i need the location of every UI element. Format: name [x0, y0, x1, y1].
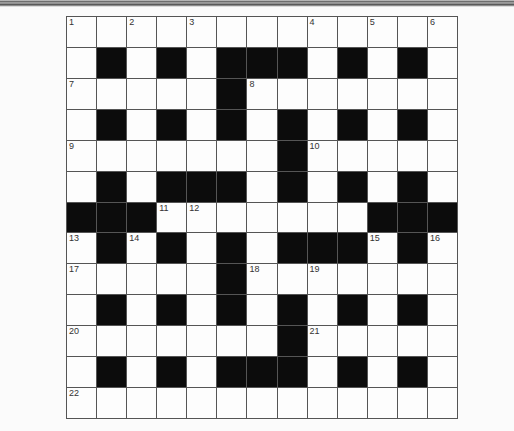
answer-cell[interactable]: 15 [368, 233, 397, 263]
answer-cell[interactable] [247, 326, 276, 356]
answer-cell[interactable]: 1 [67, 17, 96, 47]
answer-cell[interactable] [247, 233, 276, 263]
answer-cell[interactable]: 6 [428, 17, 457, 47]
answer-cell[interactable] [308, 295, 337, 325]
answer-cell[interactable] [97, 388, 126, 418]
answer-cell[interactable] [398, 264, 427, 294]
answer-cell[interactable] [187, 48, 216, 78]
answer-cell[interactable] [217, 388, 246, 418]
answer-cell[interactable] [428, 326, 457, 356]
answer-cell[interactable] [217, 141, 246, 171]
answer-cell[interactable]: 16 [428, 233, 457, 263]
answer-cell[interactable] [308, 110, 337, 140]
answer-cell[interactable] [187, 233, 216, 263]
answer-cell[interactable] [187, 264, 216, 294]
answer-cell[interactable] [157, 141, 186, 171]
answer-cell[interactable] [338, 326, 367, 356]
answer-cell[interactable] [368, 295, 397, 325]
answer-cell[interactable] [157, 326, 186, 356]
answer-cell[interactable]: 21 [308, 326, 337, 356]
answer-cell[interactable] [157, 388, 186, 418]
answer-cell[interactable]: 13 [67, 233, 96, 263]
answer-cell[interactable] [97, 141, 126, 171]
answer-cell[interactable]: 22 [67, 388, 96, 418]
answer-cell[interactable] [187, 141, 216, 171]
answer-cell[interactable] [278, 17, 307, 47]
answer-cell[interactable] [97, 17, 126, 47]
answer-cell[interactable]: 14 [127, 233, 156, 263]
answer-cell[interactable] [127, 264, 156, 294]
answer-cell[interactable] [127, 79, 156, 109]
answer-cell[interactable] [308, 203, 337, 233]
answer-cell[interactable] [338, 79, 367, 109]
answer-cell[interactable] [127, 357, 156, 387]
answer-cell[interactable]: 3 [187, 17, 216, 47]
answer-cell[interactable] [97, 326, 126, 356]
answer-cell[interactable] [428, 264, 457, 294]
answer-cell[interactable] [278, 79, 307, 109]
answer-cell[interactable] [428, 79, 457, 109]
answer-cell[interactable] [187, 357, 216, 387]
answer-cell[interactable] [338, 17, 367, 47]
answer-cell[interactable] [398, 141, 427, 171]
answer-cell[interactable] [338, 264, 367, 294]
answer-cell[interactable] [428, 172, 457, 202]
answer-cell[interactable] [278, 388, 307, 418]
answer-cell[interactable]: 11 [157, 203, 186, 233]
answer-cell[interactable] [308, 48, 337, 78]
answer-cell[interactable] [428, 295, 457, 325]
answer-cell[interactable] [247, 172, 276, 202]
answer-cell[interactable] [368, 110, 397, 140]
answer-cell[interactable] [217, 17, 246, 47]
answer-cell[interactable] [338, 388, 367, 418]
answer-cell[interactable] [67, 110, 96, 140]
answer-cell[interactable] [187, 326, 216, 356]
answer-cell[interactable] [247, 17, 276, 47]
answer-cell[interactable] [187, 110, 216, 140]
answer-cell[interactable] [338, 141, 367, 171]
answer-cell[interactable] [398, 79, 427, 109]
answer-cell[interactable] [247, 388, 276, 418]
answer-cell[interactable] [127, 172, 156, 202]
answer-cell[interactable]: 12 [187, 203, 216, 233]
answer-cell[interactable] [127, 141, 156, 171]
answer-cell[interactable] [247, 203, 276, 233]
answer-cell[interactable] [217, 203, 246, 233]
answer-cell[interactable] [278, 264, 307, 294]
answer-cell[interactable]: 17 [67, 264, 96, 294]
answer-cell[interactable] [368, 172, 397, 202]
answer-cell[interactable] [157, 79, 186, 109]
answer-cell[interactable] [398, 388, 427, 418]
answer-cell[interactable] [338, 203, 367, 233]
answer-cell[interactable]: 4 [308, 17, 337, 47]
answer-cell[interactable] [187, 295, 216, 325]
answer-cell[interactable] [368, 79, 397, 109]
answer-cell[interactable] [247, 295, 276, 325]
answer-cell[interactable] [368, 326, 397, 356]
answer-cell[interactable] [67, 172, 96, 202]
answer-cell[interactable]: 10 [308, 141, 337, 171]
answer-cell[interactable]: 2 [127, 17, 156, 47]
answer-cell[interactable] [368, 388, 397, 418]
answer-cell[interactable]: 5 [368, 17, 397, 47]
answer-cell[interactable] [157, 264, 186, 294]
answer-cell[interactable]: 7 [67, 79, 96, 109]
answer-cell[interactable] [428, 141, 457, 171]
answer-cell[interactable] [278, 203, 307, 233]
answer-cell[interactable] [97, 79, 126, 109]
answer-cell[interactable] [428, 357, 457, 387]
answer-cell[interactable] [127, 110, 156, 140]
answer-cell[interactable] [97, 264, 126, 294]
answer-cell[interactable] [368, 357, 397, 387]
answer-cell[interactable] [398, 326, 427, 356]
answer-cell[interactable] [67, 357, 96, 387]
answer-cell[interactable] [428, 388, 457, 418]
answer-cell[interactable] [127, 388, 156, 418]
answer-cell[interactable] [428, 48, 457, 78]
answer-cell[interactable] [368, 264, 397, 294]
answer-cell[interactable] [217, 326, 246, 356]
answer-cell[interactable] [428, 110, 457, 140]
answer-cell[interactable] [308, 172, 337, 202]
answer-cell[interactable]: 19 [308, 264, 337, 294]
answer-cell[interactable] [187, 388, 216, 418]
